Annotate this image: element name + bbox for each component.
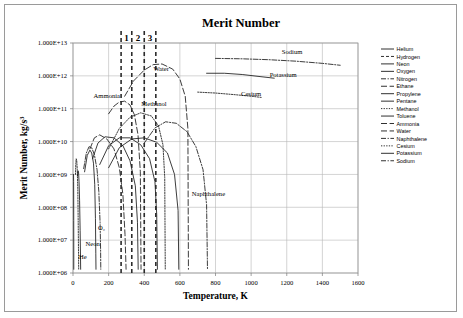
legend-label-pentane: Pentane (397, 98, 417, 104)
zone-label-1: 1 (124, 33, 129, 43)
chart-svg: 1231.000E+061.000E+071.000E+081.000E+091… (5, 5, 458, 313)
legend-label-nitrogen: Nitrogen (397, 76, 417, 82)
y-tick-label: 1.000E+09 (38, 171, 68, 178)
legend-label-naphthalene: Naphthalene (397, 136, 428, 142)
x-tick-label: 1200 (280, 279, 294, 286)
annotation-potassium: Potassium (270, 71, 298, 78)
x-tick-label: 1600 (351, 279, 365, 286)
x-tick-label: 400 (139, 279, 150, 286)
legend-label-ethane: Ethane (397, 83, 414, 89)
annotation-water: Water (153, 65, 169, 72)
annotation-ammonia: Ammonia (94, 92, 120, 99)
annotation-o: O₂ (98, 224, 105, 231)
x-tick-label: 600 (175, 279, 186, 286)
x-tick-label: 1400 (316, 279, 330, 286)
legend-label-sodium: Sodium (397, 158, 416, 164)
legend-label-water: Water (397, 128, 411, 134)
y-tick-label: 1.000E+10 (38, 138, 68, 145)
legend-label-oxygen: Oxygen (397, 68, 416, 74)
y-tick-label: 1.000E+12 (38, 72, 67, 79)
legend-label-toluene: Toluene (397, 113, 416, 119)
annotation-cesium: Cesium (241, 90, 262, 97)
legend-label-propylene: Propylene (397, 91, 421, 97)
legend-label-methanol: Methanol (397, 106, 419, 112)
y-tick-label: 1.000E+11 (38, 105, 67, 112)
x-tick-label: 200 (104, 279, 115, 286)
annotation-naphthalene: Naphthalene (192, 190, 225, 197)
chart-frame: 1231.000E+061.000E+071.000E+081.000E+091… (4, 4, 457, 312)
merit-number-chart: 1231.000E+061.000E+071.000E+081.000E+091… (5, 5, 458, 313)
legend-label-hydrogen: Hydrogen (397, 54, 420, 60)
legend-label-potassium: Potassium (397, 150, 423, 156)
annotation-neon: Neon (85, 240, 100, 247)
legend-label-helium: Helium (397, 46, 414, 52)
y-tick-label: 1.000E+07 (38, 236, 68, 243)
x-tick-label: 0 (71, 279, 75, 286)
x-tick-label: 1000 (245, 279, 259, 286)
y-axis-title: Merit Number, kg/s3 (18, 116, 30, 200)
zone-label-2: 2 (136, 33, 141, 43)
legend-label-cesium: Cesium (397, 143, 416, 149)
x-tick-label: 800 (211, 279, 222, 286)
chart-title: Merit Number (202, 16, 281, 30)
zone-label-3: 3 (148, 33, 153, 43)
y-tick-label: 1.000E+08 (38, 204, 68, 211)
y-tick-label: 1.000E+06 (38, 269, 68, 276)
x-axis-title: Temperature, K (183, 291, 249, 301)
annotation-sodium: Sodium (282, 48, 303, 55)
legend-label-neon: Neon (397, 61, 410, 67)
y-tick-label: 1.000E+13 (38, 39, 68, 46)
legend-label-ammonia: Ammonia (397, 121, 420, 127)
annotation-he: He (79, 253, 87, 260)
annotation-methanol: Methanol (141, 100, 166, 107)
